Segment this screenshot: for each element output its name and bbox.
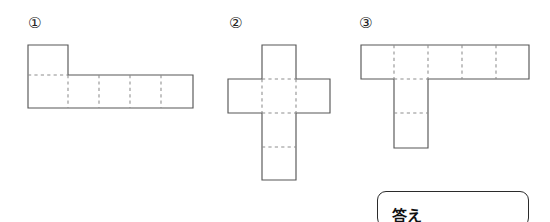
net-label-1: ① (28, 16, 41, 31)
net-label-3: ③ (359, 16, 372, 31)
net-label-2: ② (229, 16, 242, 31)
worksheet-canvas: ① ② ③ 答え (0, 0, 550, 222)
net-3-fill (361, 45, 529, 148)
cube-nets-figure (0, 0, 550, 222)
net-1-fill (28, 45, 193, 108)
net-1-group (28, 45, 193, 108)
answer-label: 答え (392, 209, 422, 222)
net-2-group (228, 45, 330, 180)
net-3-group (361, 45, 529, 148)
